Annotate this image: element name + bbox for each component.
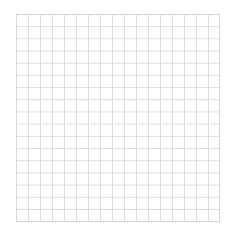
grid-canvas — [16, 14, 220, 222]
